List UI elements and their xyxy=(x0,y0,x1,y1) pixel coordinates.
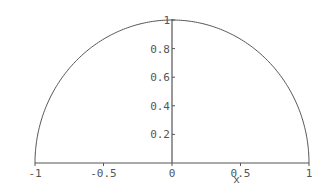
x-tick-label: -0.5 xyxy=(90,167,117,180)
y-axis-ticks: 0.20.40.60.81 xyxy=(150,14,175,141)
x-tick-label: 1 xyxy=(306,167,313,180)
y-tick-label: 0.8 xyxy=(150,43,170,56)
y-tick-label: 0.4 xyxy=(150,100,170,113)
y-tick-label: 0.6 xyxy=(150,71,170,84)
x-axis-ticks: -1-0.500.51 xyxy=(28,163,312,180)
semicircle-plot: -1-0.500.51 0.20.40.60.81 x xyxy=(0,0,326,187)
y-tick-label: 0.2 xyxy=(150,128,170,141)
x-tick-label: 0 xyxy=(169,167,176,180)
axes xyxy=(35,19,309,163)
x-axis-label: x xyxy=(233,173,240,186)
x-tick-label: -1 xyxy=(28,167,41,180)
y-tick-label: 1 xyxy=(163,14,170,27)
